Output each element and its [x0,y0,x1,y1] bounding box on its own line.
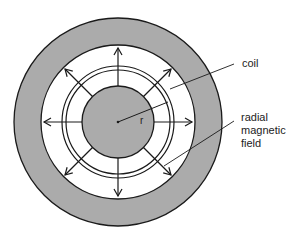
coil-label: coil [242,57,259,69]
field-label-line2: magnetic [241,124,286,136]
radial-field-diagram: r coil radial magnetic field [0,0,300,243]
center-point [117,121,120,124]
field-label-line1: radial [241,111,268,123]
field-label-line3: field [241,137,261,149]
